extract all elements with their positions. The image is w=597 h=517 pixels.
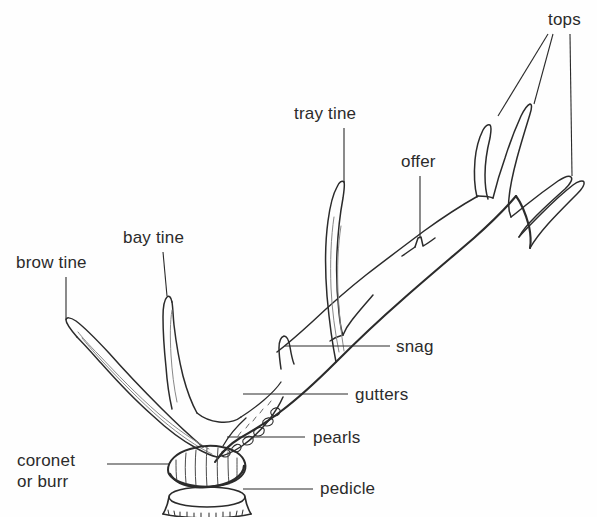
- antler-outline: [66, 104, 584, 517]
- pedicle-right-wall: [245, 497, 251, 514]
- coronet-ridges: [176, 448, 237, 487]
- brow-tine-outer-edge: [66, 318, 203, 447]
- beam-upper-contour: [277, 196, 478, 352]
- beam-lower-contour: [215, 196, 516, 462]
- pedicle-top-ellipse: [169, 487, 245, 507]
- label-bay-tine: bay tine: [123, 228, 184, 248]
- beam-upper-contour-b: [402, 247, 415, 256]
- offer-notch: [415, 237, 435, 247]
- leader-tops-2: [534, 34, 553, 104]
- label-offer: offer: [401, 152, 436, 172]
- leader-lines: [66, 34, 572, 489]
- crown-inner-fork: [511, 176, 572, 237]
- top-prong-right: [519, 181, 584, 248]
- crown-base-left: [478, 196, 493, 198]
- leader-bay-tine: [163, 252, 167, 296]
- label-pearls: pearls: [313, 428, 361, 448]
- label-gutters: gutters: [355, 385, 408, 405]
- label-tray-tine: tray tine: [294, 104, 356, 124]
- label-pedicle: pedicle: [320, 479, 375, 499]
- top-prong-left: [474, 125, 491, 199]
- antler-illustration: [0, 0, 597, 517]
- brow-tine-inner-edge: [77, 337, 217, 457]
- label-tops: tops: [548, 10, 581, 30]
- leader-tops-3: [570, 34, 572, 176]
- bay-tine-lower-curve: [197, 413, 241, 422]
- label-coronet-or-burr: coronet or burr: [17, 450, 75, 492]
- label-snag: snag: [396, 337, 434, 357]
- leader-tops-1: [498, 34, 548, 116]
- brow-tine-gutters: [78, 332, 212, 454]
- label-brow-tine: brow tine: [16, 253, 87, 273]
- antler-diagram-page: tops tray tine offer bay tine brow tine …: [0, 0, 597, 517]
